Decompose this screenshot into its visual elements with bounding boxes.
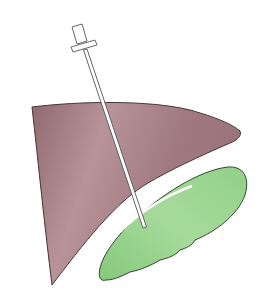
illustration-canvas: Needle inserted through liver into gallb… <box>0 0 270 304</box>
biopsy-diagram <box>0 0 270 304</box>
needle-hub <box>71 24 97 52</box>
